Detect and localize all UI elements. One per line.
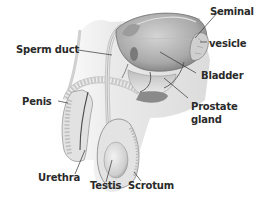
label-urethra: Urethra [38, 172, 80, 183]
label-penis: Penis [22, 96, 52, 107]
label-prostate-line1: Prostate [191, 101, 238, 112]
label-seminal-vesicle-line2: vesicle [209, 38, 246, 49]
label-prostate-line2: gland [191, 114, 222, 125]
diagram-canvas: Sperm duct Seminal vesicle Bladder Prost… [0, 0, 259, 204]
label-scrotum: Scrotum [128, 180, 174, 191]
label-sperm-duct: Sperm duct [16, 44, 79, 55]
label-bladder: Bladder [201, 70, 243, 81]
label-seminal-vesicle-line1: Seminal [210, 6, 254, 17]
label-testis: Testis [90, 180, 121, 191]
testis [104, 142, 128, 178]
